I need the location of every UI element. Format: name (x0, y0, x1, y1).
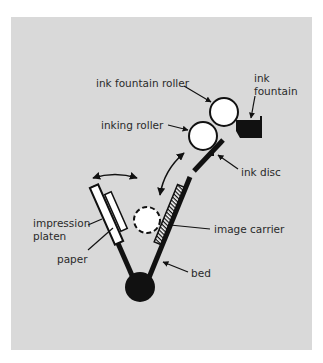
leader-inking-roller (168, 125, 188, 130)
inking-roller (189, 122, 217, 150)
platen-swing-arrow (93, 175, 137, 179)
ink-disc-notch (210, 151, 214, 156)
roller-position-dashed (134, 207, 160, 233)
label-image-carrier: image carrier (214, 223, 285, 235)
leader-paper (88, 228, 113, 250)
hinge (125, 272, 155, 302)
label-ink-disc: ink disc (241, 166, 281, 178)
ink-fountain-roller (210, 98, 238, 126)
leader-bed (163, 262, 188, 272)
platen-press-diagram: ink fountain roller ink fountain inking … (0, 0, 323, 363)
leader-ink-fountain (251, 96, 255, 118)
label-ink-fountain-2: fountain (254, 85, 298, 97)
label-bed: bed (191, 267, 211, 279)
ink-fountain (236, 116, 262, 138)
label-ink-fountain-1: ink (254, 72, 271, 84)
label-paper: paper (57, 253, 88, 265)
leader-image-carrier (170, 225, 210, 229)
label-platen: platen (33, 230, 66, 242)
leader-ink-disc (218, 155, 238, 169)
label-ink-fountain-roller: ink fountain roller (96, 77, 190, 89)
label-impression: impression (33, 217, 90, 229)
label-inking-roller: inking roller (101, 119, 164, 131)
